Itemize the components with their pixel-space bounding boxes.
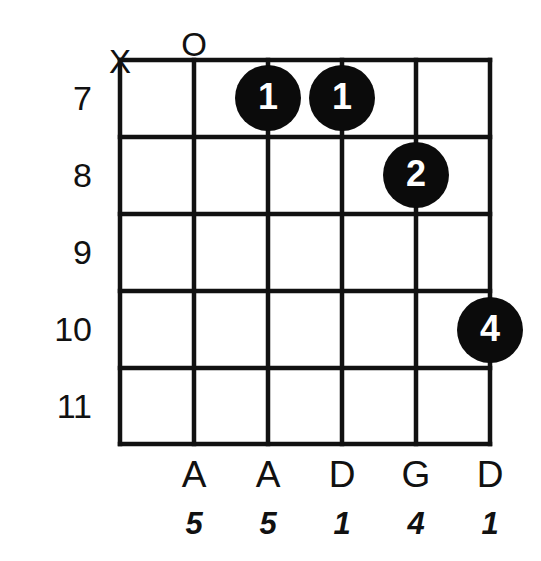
note-label-string4: D <box>302 456 382 493</box>
interval-label-string5: 4 <box>376 508 456 539</box>
interval-label-string4: 1 <box>302 508 382 539</box>
fret-number-9: 9 <box>12 235 92 269</box>
chord-diagram: 7 8 9 10 11 X O 1 1 2 4 A A D G D 5 5 1 … <box>0 0 541 561</box>
finger-dot-label: 4 <box>480 311 500 347</box>
note-label-string6: D <box>450 456 530 493</box>
note-label-string5: G <box>376 456 456 493</box>
finger-dot-label: 2 <box>406 156 426 192</box>
fret-number-7: 7 <box>12 81 92 115</box>
finger-dot-string4-fret7: 1 <box>309 65 375 131</box>
fret-number-11: 11 <box>12 389 92 423</box>
string-lines <box>120 60 490 444</box>
finger-dot-string6-fret10: 4 <box>457 297 523 363</box>
open-string-marker-icon: O <box>172 28 216 61</box>
finger-dot-label: 1 <box>332 79 352 115</box>
finger-dot-label: 1 <box>258 79 278 115</box>
fret-lines <box>120 60 490 444</box>
fret-number-8: 8 <box>12 158 92 192</box>
interval-label-string6: 1 <box>450 508 530 539</box>
note-label-string2: A <box>154 456 234 493</box>
interval-label-string3: 5 <box>228 508 308 539</box>
fret-number-10: 10 <box>12 312 92 346</box>
finger-dot-string5-fret8: 2 <box>383 142 449 208</box>
interval-label-string2: 5 <box>154 508 234 539</box>
muted-string-marker-icon: X <box>98 45 142 78</box>
note-label-string3: A <box>228 456 308 493</box>
finger-dot-string3-fret7: 1 <box>235 65 301 131</box>
